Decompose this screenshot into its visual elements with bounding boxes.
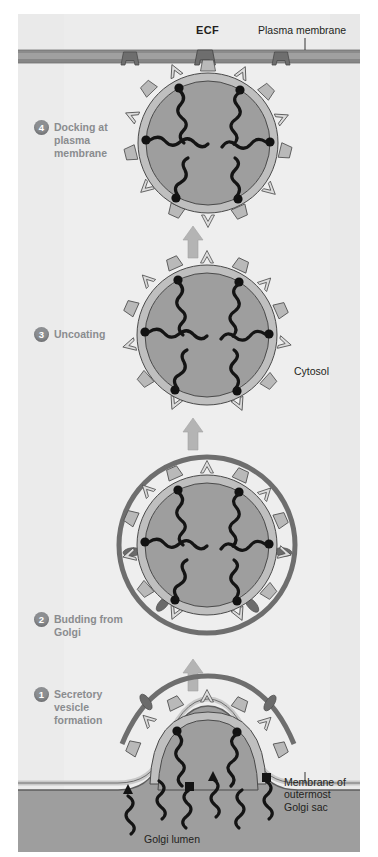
- cytosol-label: Cytosol: [294, 365, 329, 377]
- plasma-membrane-band: [18, 50, 360, 63]
- stage-1-number: 1: [34, 687, 49, 702]
- stage-callout-4: 4 Docking at plasma membrane: [34, 120, 138, 159]
- stage-1-label: Secretory vesicle formation: [54, 687, 102, 726]
- golgi-lumen-label: Golgi lumen: [144, 833, 200, 845]
- stage-3-number: 3: [34, 327, 49, 342]
- ecf-label: ECF: [196, 24, 219, 37]
- stage-4-label: Docking at plasma membrane: [54, 120, 108, 159]
- stage-callout-2: 2 Budding from Golgi: [34, 612, 138, 639]
- stage-3-label: Uncoating: [54, 327, 105, 341]
- stage-4-number: 4: [34, 120, 49, 135]
- stage-callout-1: 1 Secretory vesicle formation: [34, 687, 134, 726]
- vesicle-stage-2: [119, 457, 295, 633]
- stage-2-label: Budding from Golgi: [54, 612, 123, 639]
- diagram-figure: ECF Plasma membrane Cytosol Membrane of …: [0, 0, 378, 857]
- stage-callout-3: 3 Uncoating: [34, 327, 138, 342]
- plasma-membrane-label: Plasma membrane: [258, 24, 346, 36]
- golgi-membrane-label: Membrane of outermost Golgi sac: [284, 776, 346, 813]
- stage-2-number: 2: [34, 612, 49, 627]
